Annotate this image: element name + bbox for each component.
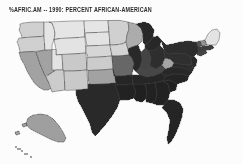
- state-or: [17, 36, 45, 53]
- state-mo: [112, 55, 134, 76]
- us-choropleth-map: [0, 14, 242, 164]
- state-me: [205, 29, 220, 45]
- figure-panel: %AFRIC.AM -- 1990: PERCENT AFRICAN-AMERI…: [0, 0, 242, 164]
- state-hi-island-2: [17, 148, 21, 150]
- state-ne: [86, 45, 112, 58]
- state-nm: [64, 70, 88, 91]
- hawaii-inset: [15, 146, 33, 158]
- state-mn: [108, 20, 129, 45]
- state-mt: [49, 21, 85, 40]
- state-ak: [15, 114, 66, 142]
- state-hi-island-1: [15, 146, 18, 148]
- state-al: [145, 83, 157, 103]
- state-co: [62, 53, 87, 71]
- state-sd: [85, 32, 110, 46]
- state-ks: [87, 56, 113, 71]
- state-hi-island-4: [24, 153, 28, 156]
- state-tx: [76, 83, 120, 136]
- state-ok: [88, 69, 116, 85]
- state-hi-island-3: [21, 150, 24, 152]
- state-fl: [162, 100, 183, 144]
- state-hi-island-5: [29, 156, 32, 158]
- state-wy: [54, 37, 86, 55]
- state-wa: [19, 22, 44, 38]
